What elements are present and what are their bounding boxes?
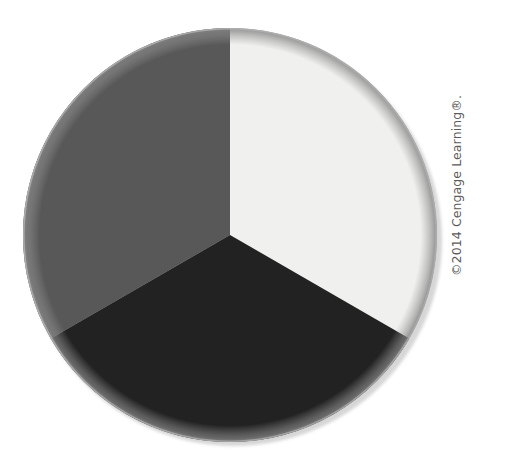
copyright-notice: ©2014 Cengage Learning®. (448, 76, 466, 276)
figure-root: ©2014 Cengage Learning®. (0, 0, 507, 471)
pie-chart (0, 0, 507, 471)
